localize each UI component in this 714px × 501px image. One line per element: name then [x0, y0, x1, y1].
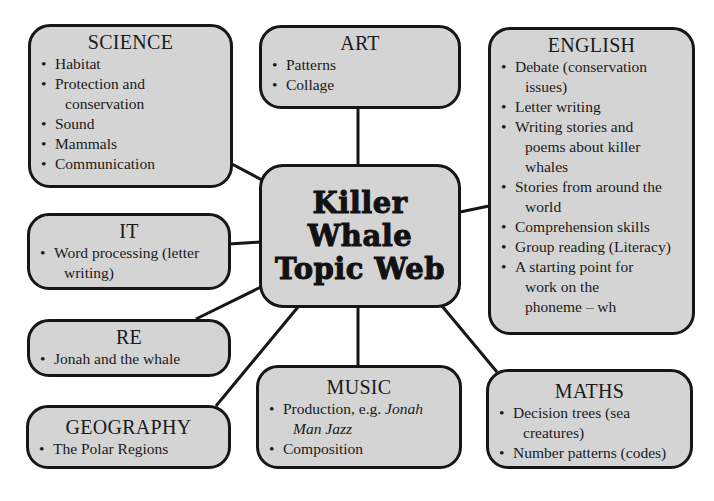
- it-box: IT Word processing (letterwriting): [27, 213, 231, 290]
- it-list: Word processing (letterwriting): [38, 243, 220, 283]
- link-it: [229, 242, 260, 244]
- english-title: ENGLISH: [499, 34, 684, 56]
- list-item: Mammals: [39, 134, 222, 154]
- list-item: Jonah and the whale: [38, 349, 220, 369]
- art-title: ART: [270, 32, 450, 54]
- center-title-line-2: Whale: [308, 220, 412, 253]
- maths-title: MATHS: [497, 380, 682, 402]
- list-item: Letter writing: [499, 97, 684, 117]
- list-item: Composition: [267, 439, 451, 459]
- music-list: Production, e.g. JonahMan Jazz Compositi…: [267, 399, 451, 459]
- list-item: Collage: [270, 75, 450, 95]
- maths-box: MATHS Decision trees (seacreatures) Numb…: [486, 369, 693, 469]
- it-title: IT: [38, 220, 220, 242]
- list-item: Comprehension skills: [499, 217, 684, 237]
- list-item: Sound: [39, 114, 222, 134]
- english-box: ENGLISH Debate (conservationissues) Lett…: [488, 27, 695, 335]
- topic-web-center: Killer Whale Topic Web: [259, 164, 461, 308]
- maths-list: Decision trees (seacreatures) Number pat…: [497, 403, 682, 463]
- list-item: Group reading (Literacy): [499, 237, 684, 257]
- list-item: Habitat: [39, 54, 222, 74]
- science-title: SCIENCE: [39, 31, 222, 53]
- link-re: [196, 287, 261, 319]
- list-item: The Polar Regions: [37, 439, 220, 459]
- list-item: Number patterns (codes): [497, 443, 682, 463]
- center-title-line-3: Topic Web: [275, 253, 445, 286]
- art-box: ART Patterns Collage: [259, 25, 461, 109]
- english-list: Debate (conservationissues) Letter writi…: [499, 57, 684, 317]
- list-item: Decision trees (seacreatures): [497, 403, 682, 443]
- link-science: [230, 163, 262, 180]
- geography-title: GEOGRAPHY: [37, 416, 220, 438]
- list-item: Word processing (letterwriting): [38, 243, 220, 283]
- center-title-line-1: Killer: [313, 187, 408, 220]
- re-list: Jonah and the whale: [38, 349, 220, 369]
- list-item: Production, e.g. JonahMan Jazz: [267, 399, 451, 439]
- geography-box: GEOGRAPHY The Polar Regions: [26, 405, 231, 469]
- list-item: Writing stories andpoems about killerwha…: [499, 117, 684, 177]
- music-title: MUSIC: [267, 376, 451, 398]
- list-item: Protection andconservation: [39, 74, 222, 114]
- list-item: A starting point forwork on thephoneme –…: [499, 257, 684, 317]
- music-box: MUSIC Production, e.g. JonahMan Jazz Com…: [256, 365, 462, 469]
- re-title: RE: [38, 326, 220, 348]
- art-list: Patterns Collage: [270, 55, 450, 95]
- re-box: RE Jonah and the whale: [27, 319, 231, 377]
- list-item: Debate (conservationissues): [499, 57, 684, 97]
- geography-list: The Polar Regions: [37, 439, 220, 459]
- science-list: Habitat Protection andconservation Sound…: [39, 54, 222, 174]
- list-item: Stories from around theworld: [499, 177, 684, 217]
- list-item: Patterns: [270, 55, 450, 75]
- list-item: Communication: [39, 154, 222, 174]
- science-box: SCIENCE Habitat Protection andconservati…: [28, 24, 233, 188]
- link-english: [460, 206, 489, 212]
